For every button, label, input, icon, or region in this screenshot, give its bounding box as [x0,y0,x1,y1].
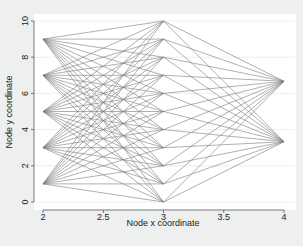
y-tick-label: 4 [20,127,30,132]
network-chart: 22.533.54 0246810 Node x coordinate Node… [0,0,303,246]
y-tick-label: 8 [20,55,30,60]
y-ticks: 0246810 [20,16,34,205]
y-tick-label: 10 [20,16,30,26]
y-tick-label: 2 [20,163,30,168]
x-tick-label: 2 [40,212,45,222]
x-tick-label: 3.5 [217,212,230,222]
x-tick-label: 2.5 [97,212,110,222]
y-tick-label: 6 [20,91,30,96]
y-tick-label: 0 [20,199,30,204]
x-axis-title: Node x coordinate [126,218,199,228]
x-tick-label: 4 [281,212,286,222]
figure: 22.533.54 0246810 Node x coordinate Node… [0,0,303,246]
y-axis-title: Node y coordinate [4,75,14,148]
